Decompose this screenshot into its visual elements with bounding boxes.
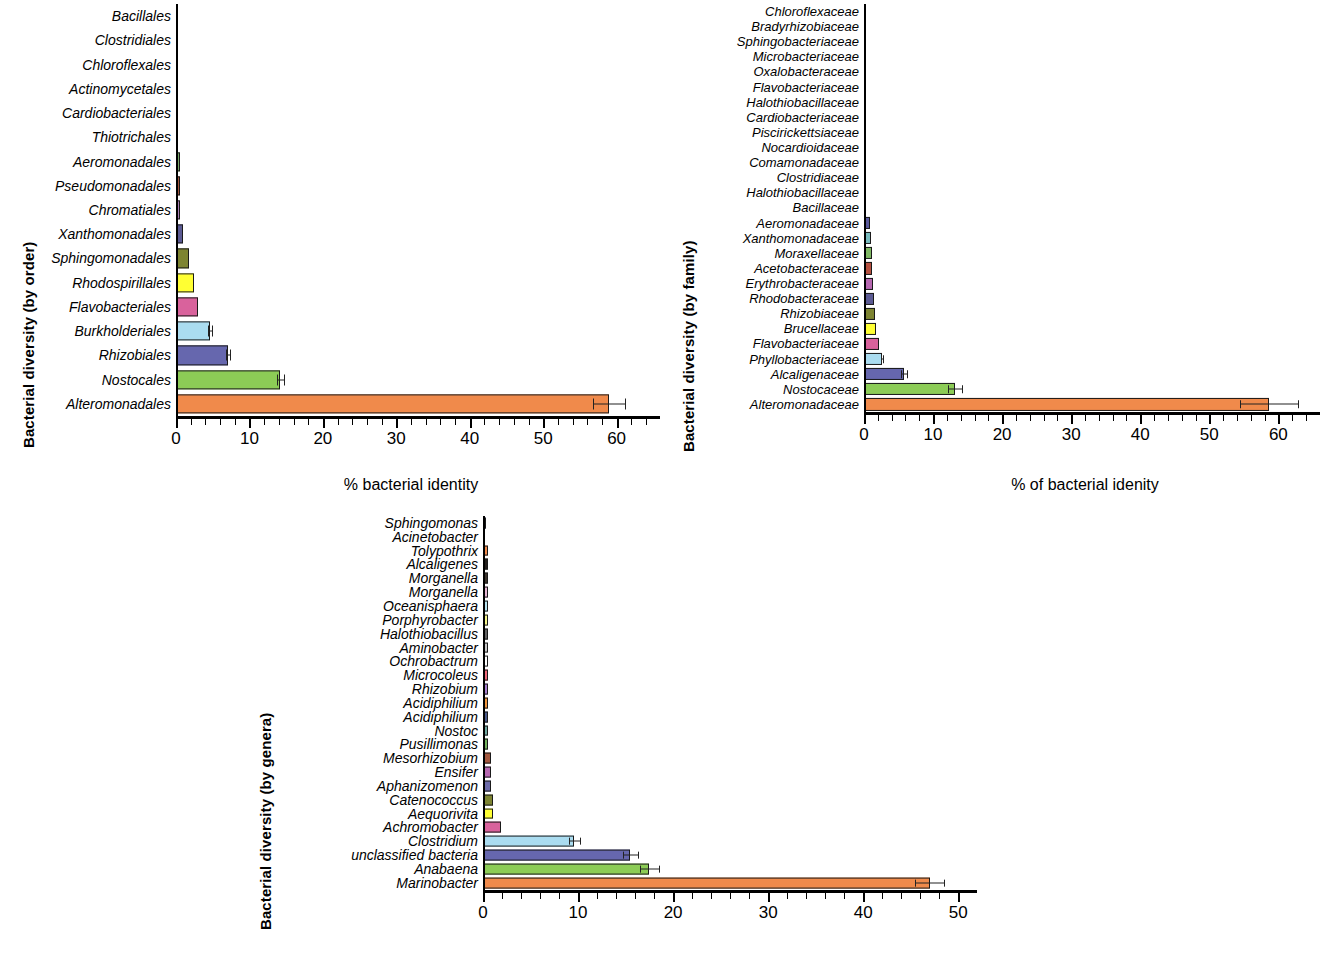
- bar-row[interactable]: Erythrobacteraceae: [686, 276, 1306, 291]
- bar-row[interactable]: Aminobacter: [263, 641, 963, 655]
- bar[interactable]: [864, 398, 1269, 410]
- bar-row[interactable]: Ochrobactrum: [263, 654, 963, 668]
- bar-row[interactable]: Piscirickettsiaceae: [686, 125, 1306, 140]
- bar-row[interactable]: Porphyrobacter: [263, 613, 963, 627]
- bar-row[interactable]: Nocardioidaceae: [686, 140, 1306, 155]
- bar-row[interactable]: Acetobacteraceae: [686, 261, 1306, 276]
- bar-row[interactable]: Marinobacter: [263, 876, 963, 890]
- bar-row[interactable]: Microcoleus: [263, 668, 963, 682]
- bar-row[interactable]: Achromobacter: [263, 821, 963, 835]
- bar[interactable]: [483, 877, 930, 888]
- bar-row[interactable]: Oceanisphaera: [263, 599, 963, 613]
- bar-row[interactable]: Bacillales: [26, 4, 646, 28]
- bar[interactable]: [176, 273, 194, 292]
- bar-row[interactable]: Comamonadaceae: [686, 155, 1306, 170]
- bar-row[interactable]: Halothiobacillaceae: [686, 95, 1306, 110]
- bar-row[interactable]: Nostocaceae: [686, 382, 1306, 397]
- bar-row[interactable]: Bacillaceae: [686, 200, 1306, 215]
- bar-row[interactable]: Aeromonadales: [26, 149, 646, 173]
- x-axis-minor-tick: [1237, 415, 1238, 421]
- bar-row[interactable]: Ensifer: [263, 765, 963, 779]
- bar-row[interactable]: Cardiobacteriales: [26, 101, 646, 125]
- bar-row[interactable]: Acidiphilium: [263, 710, 963, 724]
- bar-row[interactable]: Rhizobiaceae: [686, 306, 1306, 321]
- bar-row[interactable]: Rhodobacteraceae: [686, 291, 1306, 306]
- bar-row[interactable]: Alcaligenaceae: [686, 367, 1306, 382]
- bar-row[interactable]: Flavobacteriales: [26, 295, 646, 319]
- bar-row[interactable]: Alteromonadaceae: [686, 397, 1306, 412]
- bar-row[interactable]: Halothiobacillus: [263, 627, 963, 641]
- bar-row[interactable]: Rhodospirillales: [26, 271, 646, 295]
- bar-row[interactable]: Clostridium: [263, 834, 963, 848]
- bar-row[interactable]: Burkholderiales: [26, 319, 646, 343]
- bar-row[interactable]: Sphingomonas: [263, 516, 963, 530]
- bar-row[interactable]: Catenococcus: [263, 793, 963, 807]
- bar[interactable]: [483, 864, 649, 875]
- bar-row[interactable]: Mesorhizobium: [263, 751, 963, 765]
- bar-row[interactable]: Thiotrichales: [26, 125, 646, 149]
- bar-row[interactable]: Chloroflexales: [26, 52, 646, 76]
- bar-row[interactable]: Acidiphilium: [263, 696, 963, 710]
- bar[interactable]: [864, 368, 904, 380]
- bar-row[interactable]: Xanthomonadaceae: [686, 231, 1306, 246]
- bar-row[interactable]: Chromatiales: [26, 198, 646, 222]
- bar-row[interactable]: Rhizobiales: [26, 343, 646, 367]
- bar-row[interactable]: Microbacteriaceae: [686, 49, 1306, 64]
- bar[interactable]: [864, 353, 882, 365]
- bar-row[interactable]: Clostridiales: [26, 28, 646, 52]
- bar-track: [864, 216, 1306, 231]
- bar-row[interactable]: Phyllobacteriaceae: [686, 352, 1306, 367]
- bar[interactable]: [176, 346, 228, 365]
- bar-row[interactable]: Halothiobacillaceae: [686, 185, 1306, 200]
- bar-row[interactable]: Pusillimonas: [263, 738, 963, 752]
- error-bar-cap: [901, 370, 902, 378]
- bar-row[interactable]: Bradyrhizobiaceae: [686, 19, 1306, 34]
- bar-row[interactable]: Sphingomonadales: [26, 246, 646, 270]
- bar-row[interactable]: Nostocales: [26, 368, 646, 392]
- bar-track: [864, 231, 1306, 246]
- bar-row[interactable]: Chloroflexaceae: [686, 4, 1306, 19]
- error-bar-cap: [623, 852, 624, 859]
- bar[interactable]: [176, 297, 198, 316]
- bar[interactable]: [176, 322, 210, 341]
- bar[interactable]: [176, 394, 609, 413]
- bar-row[interactable]: Nostoc: [263, 724, 963, 738]
- bar-row[interactable]: Aeromonadaceae: [686, 216, 1306, 231]
- bar-row[interactable]: Aequorivita: [263, 807, 963, 821]
- bar-row[interactable]: Flavobacteriaceae: [686, 80, 1306, 95]
- x-axis-minor-tick: [806, 893, 807, 899]
- x-axis-minor-tick: [825, 893, 826, 899]
- bar-row[interactable]: Rhizobium: [263, 682, 963, 696]
- bar-row[interactable]: Tolypothrix: [263, 544, 963, 558]
- bar-row[interactable]: Pseudomonadales: [26, 174, 646, 198]
- bar[interactable]: [483, 822, 501, 833]
- bar[interactable]: [176, 370, 280, 389]
- bar-track: [483, 530, 963, 544]
- bar[interactable]: [483, 836, 574, 847]
- bar-row[interactable]: Flavobacteriaceae: [686, 336, 1306, 351]
- bar-row[interactable]: Xanthomonadales: [26, 222, 646, 246]
- category-label: Thiotrichales: [26, 130, 176, 144]
- bar[interactable]: [483, 850, 630, 861]
- bar-row[interactable]: Anabaena: [263, 862, 963, 876]
- category-label: Nocardioidaceae: [686, 141, 864, 154]
- bar-row[interactable]: Morganella: [263, 571, 963, 585]
- bar[interactable]: [864, 338, 879, 350]
- error-bar-cap: [944, 880, 945, 887]
- bar-row[interactable]: Cardiobacteriaceae: [686, 110, 1306, 125]
- bar-row[interactable]: Brucellaceae: [686, 321, 1306, 336]
- bar-row[interactable]: Alteromonadales: [26, 392, 646, 416]
- bar-row[interactable]: Aphanizomenon: [263, 779, 963, 793]
- bar-row[interactable]: unclassified bacteria: [263, 848, 963, 862]
- bar-row[interactable]: Morganella: [263, 585, 963, 599]
- category-label: Phyllobacteriaceae: [686, 353, 864, 366]
- bar-row[interactable]: Moraxellaceae: [686, 246, 1306, 261]
- bar-row[interactable]: Acinetobacter: [263, 530, 963, 544]
- bar-row[interactable]: Oxalobacteraceae: [686, 64, 1306, 79]
- bar[interactable]: [864, 383, 955, 395]
- x-axis-major-tick: [323, 419, 325, 428]
- bar-row[interactable]: Alcaligenes: [263, 558, 963, 572]
- bar-row[interactable]: Sphingobacteriaceae: [686, 34, 1306, 49]
- bar-row[interactable]: Actinomycetales: [26, 77, 646, 101]
- bar-row[interactable]: Clostridiaceae: [686, 170, 1306, 185]
